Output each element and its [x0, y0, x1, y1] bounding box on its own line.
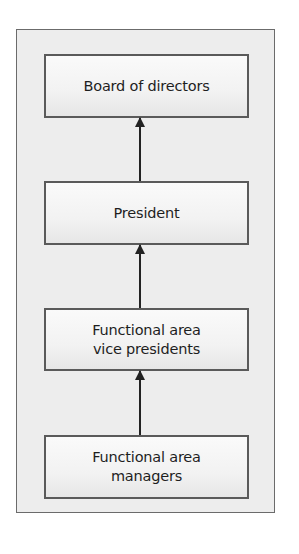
- arrow-up-icon: [139, 118, 141, 182]
- arrow-up-icon: [139, 245, 141, 309]
- node-label-president: President: [114, 204, 180, 223]
- node-board-of-directors: Board of directors: [44, 54, 249, 118]
- node-functional-area-vice-presidents: Functional area vice presidents: [44, 308, 249, 371]
- org-chart-canvas: Board of directors President Functional …: [0, 0, 299, 554]
- node-label-board: Board of directors: [83, 77, 209, 96]
- node-functional-area-managers: Functional area managers: [44, 435, 249, 499]
- node-label-managers: Functional area managers: [92, 448, 201, 486]
- arrow-up-icon: [139, 371, 141, 436]
- node-president: President: [44, 181, 249, 245]
- node-label-vps: Functional area vice presidents: [92, 321, 201, 359]
